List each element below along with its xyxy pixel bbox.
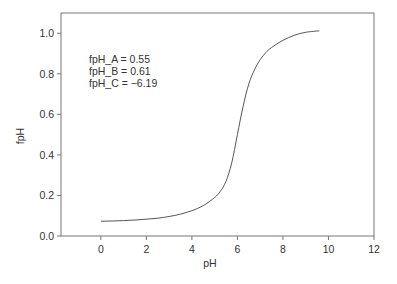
x-tick-label: 6: [234, 243, 240, 255]
x-tick-label: 2: [143, 243, 149, 255]
plot-border: [61, 13, 374, 236]
plot-frame: [61, 13, 374, 236]
y-axis-label: fpH: [14, 128, 26, 144]
y-axis: 0.00.20.40.60.81.0: [39, 27, 61, 242]
x-axis: 024681012: [98, 236, 380, 255]
parameter-annotations: fpH_A = 0.55fpH_B = 0.61fpH_C = −6.19: [89, 53, 157, 89]
annotation-text: fpH_C = −6.19: [89, 77, 157, 89]
annotation-text: fpH_B = 0.61: [89, 65, 151, 77]
y-tick-label: 0.6: [39, 108, 54, 120]
x-tick-label: 12: [368, 243, 380, 255]
y-tick-label: 0.0: [39, 230, 54, 242]
x-tick-label: 10: [323, 243, 335, 255]
y-tick-label: 1.0: [39, 27, 54, 39]
x-tick-label: 0: [98, 243, 104, 255]
x-tick-label: 8: [280, 243, 286, 255]
x-tick-label: 4: [189, 243, 195, 255]
chart: 024681012 0.00.20.40.60.81.0 fpH_A = 0.5…: [0, 0, 397, 284]
x-axis-label: pH: [203, 257, 216, 269]
y-tick-label: 0.8: [39, 68, 54, 80]
annotation-text: fpH_A = 0.55: [89, 53, 150, 65]
y-tick-label: 0.2: [39, 189, 54, 201]
y-tick-label: 0.4: [39, 149, 54, 161]
